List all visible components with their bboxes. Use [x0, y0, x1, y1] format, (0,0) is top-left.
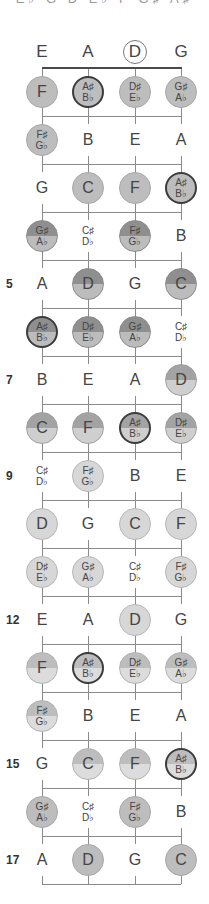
note-name: A	[176, 708, 187, 724]
note-enharmonic: A♭	[82, 572, 94, 583]
note-marker: C	[119, 508, 151, 540]
note-marker: G	[119, 844, 151, 876]
note-enharmonic: A♭	[36, 236, 48, 247]
note-marker: G	[72, 508, 104, 540]
note-marker: F♯G♭	[119, 796, 151, 828]
note-name: A♯	[175, 177, 187, 188]
note-name: E	[176, 468, 187, 484]
fret-number: 5	[6, 277, 26, 291]
fret-line	[42, 404, 181, 405]
note-name: A	[83, 612, 94, 628]
fret-line	[42, 308, 181, 309]
fretboard-diagram: EADG579121517FA♯B♭D♯E♭G♯A♭F♯G♭BEAGCFA♯B♭…	[0, 0, 209, 904]
note-marker: B	[165, 796, 197, 828]
note-marker: B	[26, 364, 58, 396]
note-name: G	[129, 852, 141, 868]
note-enharmonic: E♭	[175, 428, 187, 439]
note-name: D♯	[36, 561, 48, 572]
note-name: G	[82, 516, 94, 532]
note-name: A♯	[129, 417, 141, 428]
fret-line	[42, 356, 181, 357]
note-enharmonic: E♭	[82, 332, 94, 343]
fret-line	[42, 548, 181, 549]
note-marker: D♯E♭	[119, 76, 151, 108]
note-marker: C♯D♭	[165, 316, 197, 348]
note-marker: G♯A♭	[165, 652, 197, 684]
note-name: G	[129, 276, 141, 292]
note-marker: F	[119, 748, 151, 780]
note-marker: C	[72, 748, 104, 780]
note-name: E	[130, 132, 141, 148]
note-name: D♯	[129, 81, 141, 92]
note-marker: B	[72, 700, 104, 732]
note-enharmonic: G♭	[82, 476, 95, 487]
note-enharmonic: B♭	[36, 332, 48, 343]
note-name: D	[36, 516, 48, 532]
note-marker: A♯B♭	[165, 172, 197, 204]
note-name: C	[36, 420, 48, 436]
note-marker: D	[165, 364, 197, 396]
note-name: G	[36, 756, 48, 772]
note-marker: F	[26, 76, 58, 108]
note-marker: C♯D♭	[72, 796, 104, 828]
fret-line	[42, 884, 181, 885]
note-name: B	[176, 228, 187, 244]
note-name: C♯	[129, 561, 141, 572]
note-name: F♯	[82, 465, 93, 476]
note-name: F♯	[175, 561, 186, 572]
fret-line	[42, 740, 181, 741]
note-marker: F♯G♭	[72, 460, 104, 492]
note-name: A♯	[82, 81, 94, 92]
fret-number: 12	[6, 613, 26, 627]
note-marker: C	[72, 172, 104, 204]
note-name: B	[83, 132, 94, 148]
note-name: B	[176, 804, 187, 820]
note-name: F	[176, 516, 186, 532]
note-marker: D	[72, 268, 104, 300]
note-marker: G	[26, 172, 58, 204]
note-marker: F♯G♭	[26, 700, 58, 732]
note-name: G♯	[36, 801, 49, 812]
note-name: A♯	[82, 657, 94, 668]
note-enharmonic: B♭	[175, 764, 187, 775]
note-marker: B	[72, 124, 104, 156]
note-enharmonic: D♭	[129, 572, 141, 583]
note-marker: A	[119, 364, 151, 396]
fret-number: 9	[6, 469, 26, 483]
note-enharmonic: G♭	[129, 812, 142, 823]
note-name: B	[37, 372, 48, 388]
note-marker: C♯D♭	[26, 460, 58, 492]
note-enharmonic: B♭	[82, 668, 94, 679]
note-name: E	[83, 372, 94, 388]
fret-line	[42, 116, 181, 117]
note-marker: D♯E♭	[72, 316, 104, 348]
note-marker: E	[165, 460, 197, 492]
fret-line	[42, 596, 181, 597]
note-name: A	[37, 276, 48, 292]
note-marker: F♯G♭	[26, 124, 58, 156]
note-name: A	[130, 372, 141, 388]
note-marker: A	[26, 268, 58, 300]
fret-line	[42, 500, 181, 501]
note-name: E	[130, 708, 141, 724]
note-marker: E	[26, 604, 58, 636]
note-name: G	[36, 180, 48, 196]
note-marker: G♯A♭	[72, 556, 104, 588]
note-name: F	[130, 756, 140, 772]
note-name: G♯	[175, 657, 188, 668]
note-marker: D♯E♭	[165, 412, 197, 444]
note-enharmonic: A♭	[175, 668, 187, 679]
note-marker: F♯G♭	[165, 556, 197, 588]
note-enharmonic: E♭	[129, 668, 141, 679]
note-name: F♯	[36, 705, 47, 716]
note-marker: A	[72, 604, 104, 636]
note-marker: G	[26, 748, 58, 780]
note-marker: C♯D♭	[119, 556, 151, 588]
note-marker: F	[119, 172, 151, 204]
note-name: F	[83, 420, 93, 436]
note-name: F♯	[36, 129, 47, 140]
note-enharmonic: E♭	[36, 572, 48, 583]
note-enharmonic: D♭	[82, 236, 94, 247]
note-marker: A♯B♭	[72, 652, 104, 684]
note-marker: F	[26, 652, 58, 684]
